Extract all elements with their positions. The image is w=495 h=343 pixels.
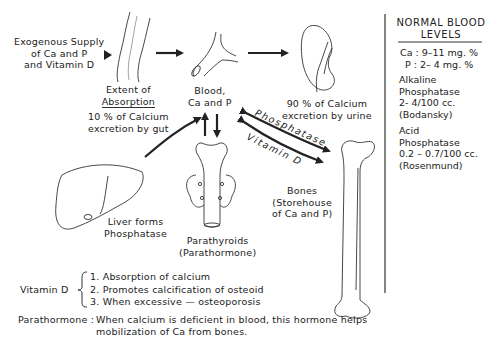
alkaline-l2: Phosphatase <box>399 86 486 98</box>
exogenous-line1: Exogenous Supply <box>14 36 104 48</box>
acid-phosphatase: Acid Phosphatase 0.2 – 0.7/100 cc. (Rose… <box>396 125 486 171</box>
alkaline-l4: (Bodansky) <box>399 109 486 121</box>
arrowhead-icon <box>104 50 112 60</box>
exogenous-line3: and Vitamin D <box>14 59 104 71</box>
liver-line2: Phosphatase <box>104 228 167 240</box>
femur-bone-icon <box>335 141 375 318</box>
intestine-icon <box>117 12 150 82</box>
vitamin-d-item-2: 2. Promotes calcification of osteoid <box>90 284 264 297</box>
blood-line2: Ca and P <box>188 97 232 109</box>
vitamin-d-note-label: Vitamin D <box>20 284 69 296</box>
kidney-line1: 90 % of Calcium <box>282 98 372 110</box>
brace-icon <box>78 272 87 307</box>
absorption-label: Extent of Absorption 10 % of Calcium exc… <box>88 84 169 134</box>
acid-l4: (Rosenmund) <box>399 160 486 172</box>
blood-label: Blood, Ca and P <box>188 85 232 108</box>
parathormone-note-label: Parathormone : <box>18 314 94 326</box>
absorption-title2: Absorption <box>102 96 155 109</box>
absorption-title: Extent of <box>88 84 169 96</box>
bones-line1: Bones <box>272 185 332 197</box>
normal-blood-levels-panel: NORMAL BLOOD LEVELS Ca : 9–11 mg. % P : … <box>396 17 486 171</box>
alkaline-l3: 2- 4/100 cc. <box>399 97 486 109</box>
alkaline-l1: Alkaline <box>399 74 486 86</box>
exogenous-line2: of Ca and P <box>14 48 104 60</box>
liver-label: Liver forms Phosphatase <box>104 216 167 239</box>
absorption-line1: 10 % of Calcium <box>88 111 169 123</box>
bones-line3: of Ca and P) <box>272 208 332 220</box>
blood-vessel-icon <box>190 32 238 78</box>
parathyroid-icon <box>187 143 236 227</box>
parathyroids-line1: Parathyroids <box>179 235 256 247</box>
parathormone-line2: mobilization of Ca from bones. <box>96 326 367 338</box>
parathyroids-line2: (Parathormone) <box>179 247 256 259</box>
exogenous-supply-label: Exogenous Supply of Ca and P and Vitamin… <box>14 36 104 71</box>
kidney-label: 90 % of Calcium excretion by urine <box>282 98 372 121</box>
vitamin-d-item-1: 1. Absorption of calcium <box>90 271 264 284</box>
bones-line2: (Storehouse <box>272 197 332 209</box>
vitamin-d-item-3: 3. When excessive — osteoporosis <box>90 296 264 309</box>
kidney-icon <box>301 25 334 92</box>
acid-l2: Phosphatase <box>399 137 486 149</box>
blood-line1: Blood, <box>188 85 232 97</box>
calcium-level: Ca : 9–11 mg. % <box>396 47 486 59</box>
phosphorus-level: P : 2– 4 mg. % <box>396 59 486 71</box>
parathormone-note-text: When calcium is deficient in blood, this… <box>96 314 367 337</box>
alkaline-phosphatase: Alkaline Phosphatase 2- 4/100 cc. (Bodan… <box>396 74 486 120</box>
kidney-line2: excretion by urine <box>282 110 372 122</box>
bones-label: Bones (Storehouse of Ca and P) <box>272 185 332 220</box>
liver-line1: Liver forms <box>104 216 167 228</box>
parathyroids-label: Parathyroids (Parathormone) <box>179 235 256 258</box>
acid-l1: Acid <box>399 125 486 137</box>
acid-l3: 0.2 – 0.7/100 cc. <box>399 148 486 160</box>
sidebar-title-line2: LEVELS <box>396 29 486 41</box>
sidebar-title-line1: NORMAL BLOOD <box>396 17 486 29</box>
absorption-line2: excretion by gut <box>88 123 169 135</box>
vitamin-d-note-list: 1. Absorption of calcium 2. Promotes cal… <box>90 271 264 309</box>
parathormone-line1: When calcium is deficient in blood, this… <box>96 314 367 326</box>
